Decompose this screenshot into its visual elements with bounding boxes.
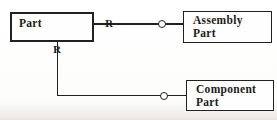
diagram-canvas: R R Part AssemblyPart ComponentPart — [0, 0, 277, 120]
entity-component-part-label: ComponentPart — [187, 81, 273, 109]
entity-assembly-part-label-line2: Part — [193, 27, 216, 39]
entity-component-part-label-line2: Part — [196, 96, 219, 108]
relationship-label-part-assembly: R — [102, 18, 116, 29]
entity-assembly-part-label-line1: Assembly — [193, 14, 243, 26]
circle-terminator-icon — [158, 20, 166, 28]
entity-part: Part — [10, 12, 94, 42]
entity-component-part: ComponentPart — [186, 80, 274, 111]
entity-assembly-part: AssemblyPart — [183, 11, 272, 43]
entity-assembly-part-label: AssemblyPart — [184, 12, 271, 40]
relationship-label-part-component: R — [50, 44, 64, 55]
entity-component-part-label-line1: Component — [196, 83, 256, 95]
entity-part-label: Part — [12, 14, 92, 30]
circle-terminator-icon — [160, 92, 168, 100]
